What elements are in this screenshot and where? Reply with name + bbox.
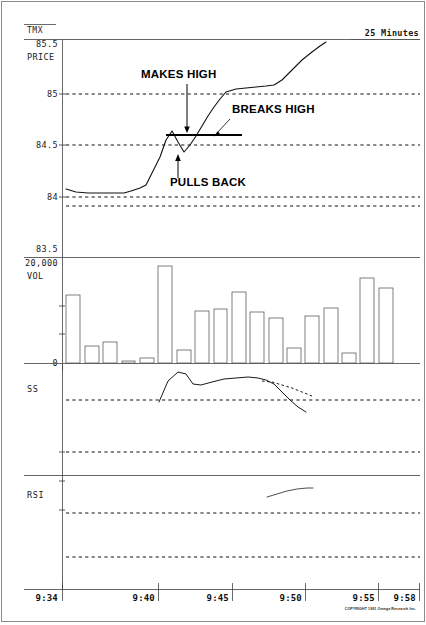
volume-bar (232, 292, 246, 363)
volume-bar (379, 288, 393, 363)
price-panel-label: PRICE (27, 52, 55, 62)
price-tick-83-5: 83.5 (36, 244, 58, 254)
volume-bar (214, 309, 227, 363)
pulls-back-arrow-head (175, 154, 181, 161)
symbol-label: TMX (27, 26, 43, 35)
volume-bar (195, 311, 209, 363)
volume-bar (85, 346, 99, 363)
volume-bar (287, 348, 301, 363)
interval-label: 25 Minutes (365, 28, 419, 38)
price-tick-84-5: 84.5 (36, 140, 58, 150)
volume-bar (103, 342, 117, 363)
volume-bars (66, 266, 393, 363)
price-tick-85-5: 85.5 (36, 39, 58, 49)
volume-bar (269, 318, 283, 363)
rsi-series (267, 488, 313, 497)
volume-bar (122, 361, 135, 363)
breaks-high-arrow-shaft (217, 119, 230, 133)
volume-bar (140, 358, 154, 363)
volume-bar (250, 312, 264, 363)
price-tick-85: 85 (47, 89, 58, 99)
volume-bar (177, 350, 191, 363)
time-label-9-40: 9:40 (133, 593, 155, 603)
volume-bar (324, 308, 338, 363)
volume-panel-label: VOL (27, 271, 44, 281)
time-label-9-58: 9:58 (394, 593, 416, 603)
volume-bar (158, 266, 172, 363)
price-tick-84: 84 (47, 192, 58, 202)
rsi-panel-label: RSI (27, 490, 44, 500)
time-label-9-55: 9:55 (353, 593, 375, 603)
price-series-line (66, 42, 326, 193)
volume-bar (342, 353, 356, 363)
time-label-9-34: 9:34 (36, 593, 59, 603)
annotation-pulls-back: PULLS BACK (170, 176, 247, 188)
volume-bar (305, 316, 319, 363)
trading-chart: TMX 25 Minutes 85.5 PRICE 85 84.5 84 83.… (0, 0, 426, 625)
volume-tick-top: 20,000 (25, 258, 58, 268)
volume-bar (66, 295, 80, 363)
volume-tick-zero: 0 (52, 358, 58, 368)
makes-high-arrow-head (184, 127, 190, 134)
ss-panel-label: SS (27, 384, 38, 394)
ss-fast-series (159, 372, 306, 412)
volume-bar (360, 278, 374, 363)
ss-slow-series (262, 381, 312, 396)
chart-screenshot: TMX 25 Minutes 85.5 PRICE 85 84.5 84 83.… (0, 0, 426, 625)
annotation-breaks-high: BREAKS HIGH (232, 103, 315, 115)
annotation-makes-high: MAKES HIGH (141, 68, 216, 80)
copyright-notice: COPYRIGHT 1991 Omega Research Inc. (345, 607, 416, 611)
time-label-9-45: 9:45 (207, 593, 229, 603)
time-label-9-50: 9:50 (280, 593, 302, 603)
